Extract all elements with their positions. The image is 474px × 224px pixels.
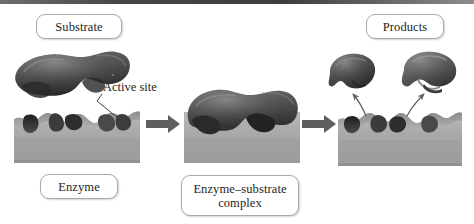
stage-3-release: [329, 52, 462, 166]
enzyme-block-empty: [338, 113, 462, 166]
release-arrow-right: [407, 94, 424, 116]
label-enzyme-substrate-complex: Enzyme–substrate complex: [181, 175, 299, 216]
product-blob-left: [329, 54, 376, 89]
label-substrate-text: Substrate: [55, 20, 102, 34]
product-blob-right: [402, 52, 456, 94]
label-substrate: Substrate: [36, 14, 122, 39]
block-arrow-1: [146, 115, 180, 133]
label-active-site: Active site: [103, 80, 157, 95]
stage-1-binding: [14, 52, 140, 163]
enzyme-block: [14, 112, 140, 163]
stage-2-complex: [184, 90, 300, 163]
label-complex-line1: Enzyme–substrate: [193, 182, 286, 196]
label-products: Products: [366, 14, 444, 39]
release-arrow-left: [353, 94, 366, 116]
block-arrow-2: [302, 115, 336, 133]
label-enzyme: Enzyme: [40, 174, 118, 199]
label-complex-line2: complex: [218, 196, 262, 210]
label-products-text: Products: [383, 20, 428, 34]
label-active-site-text: Active site: [103, 80, 157, 94]
label-enzyme-text: Enzyme: [58, 180, 100, 194]
figure-canvas: Substrate Active site Enzyme Enzyme–subs…: [0, 0, 474, 224]
